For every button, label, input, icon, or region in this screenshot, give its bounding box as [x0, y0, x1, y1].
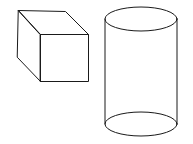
cube-shape: [18, 11, 89, 82]
figure-canvas: [0, 0, 193, 144]
cylinder-bottom-ellipse: [105, 112, 177, 136]
cylinder-top-ellipse: [105, 7, 177, 31]
cylinder-shape: [105, 7, 177, 136]
cube-front-face: [41, 35, 89, 82]
cube-left-face: [18, 11, 41, 82]
